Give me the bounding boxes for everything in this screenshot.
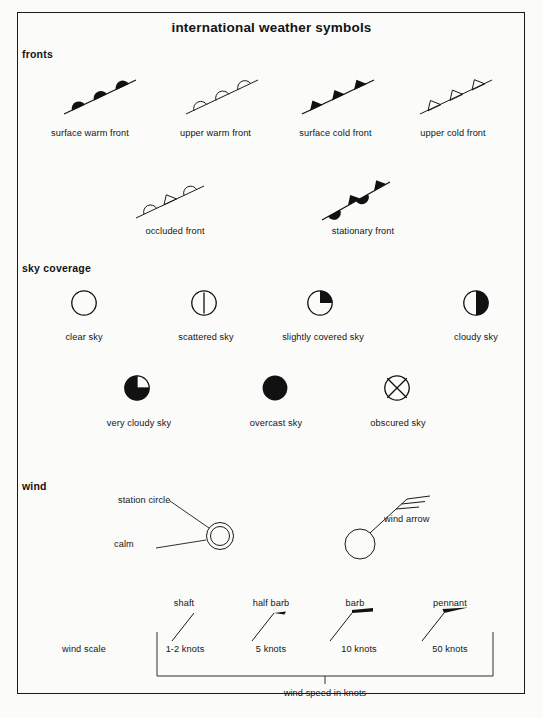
caption-stationary-front: stationary front xyxy=(298,226,428,236)
symbol-stationary-front xyxy=(318,176,408,226)
symbol-cloudy-sky xyxy=(462,289,490,317)
symbol-scattered-sky xyxy=(190,289,218,317)
label-wind-speed-in-knots: wind speed in knots xyxy=(245,688,405,698)
caption-occluded-front: occluded front xyxy=(110,226,240,236)
section-heading-fronts: fronts xyxy=(22,48,53,60)
symbol-upper-warm-front xyxy=(180,72,270,120)
section-heading-sky-coverage: sky coverage xyxy=(22,262,91,274)
caption-overcast-sky: overcast sky xyxy=(224,418,328,428)
caption-slightly-covered-sky: slightly covered sky xyxy=(258,332,388,342)
caption-upper-warm-front: upper warm front xyxy=(148,128,283,138)
caption-clear-sky: clear sky xyxy=(24,332,144,342)
symbol-clear-sky xyxy=(70,289,98,317)
caption-surface-cold-front: surface cold front xyxy=(268,128,403,138)
wind-scale-bracket xyxy=(155,630,495,686)
caption-cloudy-sky: cloudy sky xyxy=(420,332,532,342)
symbol-overcast-sky xyxy=(261,374,289,402)
label-calm: calm xyxy=(114,539,134,549)
label-wind-scale: wind scale xyxy=(62,644,106,654)
symbol-slightly-covered-sky xyxy=(306,289,334,317)
label-shaft: shaft xyxy=(148,598,220,608)
symbol-surface-cold-front xyxy=(296,72,386,120)
symbol-obscured-sky xyxy=(383,374,411,402)
symbol-very-cloudy-sky xyxy=(123,374,151,402)
symbol-upper-cold-front xyxy=(414,72,504,120)
caption-scattered-sky: scattered sky xyxy=(146,332,266,342)
caption-upper-cold-front: upper cold front xyxy=(388,128,518,138)
symbol-occluded-front xyxy=(130,178,220,224)
symbol-surface-warm-front xyxy=(58,72,148,120)
section-heading-wind: wind xyxy=(22,480,47,492)
symbol-wind-arrow xyxy=(337,488,447,568)
label-half-barb: half barb xyxy=(232,598,310,608)
page-background: international weather symbols fronts sur… xyxy=(0,0,543,718)
label-station-circle: station circle xyxy=(118,495,170,505)
caption-very-cloudy-sky: very cloudy sky xyxy=(84,418,194,428)
label-wind-arrow: wind arrow xyxy=(384,514,429,524)
caption-obscured-sky: obscured sky xyxy=(348,418,448,428)
page-title: international weather symbols xyxy=(0,20,543,35)
caption-surface-warm-front: surface warm front xyxy=(20,128,160,138)
